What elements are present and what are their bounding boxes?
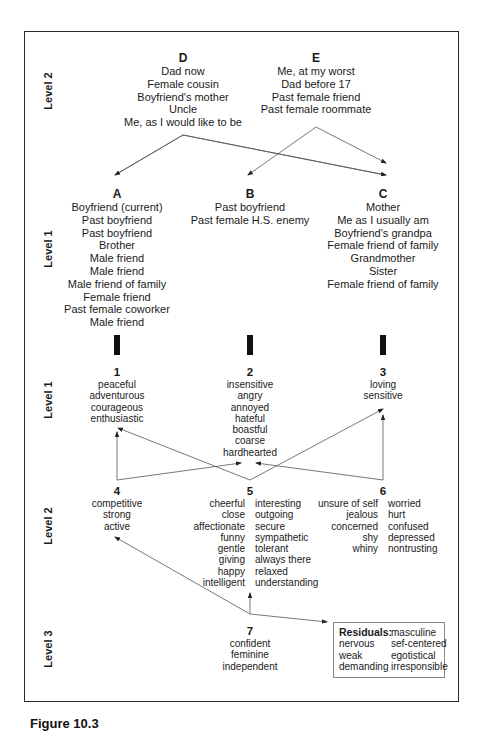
trait-cluster-3: 3 loving sensitive — [333, 366, 433, 402]
residual-item: weak — [339, 650, 392, 661]
trait-item: concerned — [298, 521, 378, 532]
group-heading: C — [323, 187, 443, 201]
residual-item: demanding — [339, 661, 392, 672]
trait-item: loving — [333, 379, 433, 390]
cluster-heading-5: 5 — [240, 485, 260, 498]
trait-column-left: unsure of self jealous concerned shy whi… — [298, 498, 378, 554]
group-item: Past female coworker — [57, 303, 177, 316]
group-item: Me, as I would like to be — [123, 116, 243, 129]
trait-item: worried — [388, 498, 437, 509]
cluster-heading: 2 — [200, 366, 300, 379]
residuals-column-left: Residuals: nervous weak demanding — [339, 627, 392, 672]
residual-item: irresponsible — [391, 661, 448, 672]
trait-item: confident — [200, 638, 300, 649]
trait-item: happy — [165, 566, 245, 577]
trait-item: hurt — [388, 509, 437, 520]
group-item: Male friend — [57, 265, 177, 278]
trait-column-left: cheerful close affectionate funny gentle… — [165, 498, 245, 588]
trait-cluster-2: 2 insensitive angry annoyed hateful boas… — [200, 366, 300, 458]
trait-item: depressed — [388, 532, 437, 543]
trait-item: hateful — [200, 413, 300, 424]
trait-item: cheerful — [165, 498, 245, 509]
residuals-box: Residuals: nervous weak demanding mascul… — [333, 622, 445, 678]
group-item: Boyfriend (current) — [57, 201, 177, 214]
trait-item: courageous — [67, 402, 167, 413]
group-item: Boyfriend's grandpa — [323, 227, 443, 240]
group-item: Past boyfriend — [190, 201, 310, 214]
trait-item: relaxed — [255, 566, 318, 577]
trait-item: close — [165, 509, 245, 520]
level-label-lower: Level 2 — [42, 496, 54, 556]
trait-cluster-4: 4 competitive strong active — [67, 485, 167, 532]
trait-item: sensitive — [333, 390, 433, 401]
trait-item: hardhearted — [200, 447, 300, 458]
trait-item: always there — [255, 554, 318, 565]
figure-group-c: C Mother Me as I usually am Boyfriend's … — [323, 187, 443, 291]
trait-cluster-1: 1 peaceful adventurous courageous enthus… — [67, 366, 167, 424]
trait-item: adventurous — [67, 390, 167, 401]
group-item: Sister — [323, 265, 443, 278]
separator-bar-1 — [114, 335, 120, 355]
trait-item: coarse — [200, 435, 300, 446]
group-item: Male friend — [57, 316, 177, 329]
trait-item: affectionate — [165, 521, 245, 532]
figure-group-a: A Boyfriend (current) Past boyfriend Pas… — [57, 187, 177, 329]
group-heading: D — [123, 51, 243, 65]
level-label-bottom: Level 3 — [42, 619, 54, 679]
trait-item: giving — [165, 554, 245, 565]
trait-item: active — [67, 521, 167, 532]
residual-item: nervous — [339, 638, 392, 649]
trait-item: competitive — [67, 498, 167, 509]
group-item: Female friend of family — [323, 239, 443, 252]
group-heading: B — [190, 187, 310, 201]
trait-item: nontrusting — [388, 543, 437, 554]
trait-item: unsure of self — [298, 498, 378, 509]
trait-item: insensitive — [200, 379, 300, 390]
level-label-middle: Level 1 — [42, 370, 54, 430]
group-item: Grandmother — [323, 252, 443, 265]
cluster-heading: 4 — [67, 485, 167, 498]
trait-item: shy — [298, 532, 378, 543]
trait-item: understanding — [255, 577, 318, 588]
figure-group-b: B Past boyfriend Past female H.S. enemy — [190, 187, 310, 227]
residual-item: masculine — [391, 627, 448, 638]
group-item: Female friend of family — [323, 278, 443, 291]
group-item: Brother — [57, 239, 177, 252]
group-item: Mother — [323, 201, 443, 214]
group-item: Past female H.S. enemy — [190, 214, 310, 227]
trait-item: strong — [67, 509, 167, 520]
residuals-column-right: masculine sef-centered egotistical irres… — [391, 627, 448, 672]
group-item: Past female friend — [256, 91, 376, 104]
trait-item: jealous — [298, 509, 378, 520]
trait-item: angry — [200, 390, 300, 401]
figure-caption: Figure 10.3 — [30, 716, 99, 731]
trait-item: enthusiastic — [67, 413, 167, 424]
cluster-heading-6: 6 — [373, 485, 393, 498]
trait-item: peaceful — [67, 379, 167, 390]
group-item: Dad now — [123, 65, 243, 78]
group-item: Past boyfriend — [57, 214, 177, 227]
level-label-top: Level 2 — [42, 61, 54, 121]
trait-item: whiny — [298, 543, 378, 554]
group-item: Female friend — [57, 291, 177, 304]
cluster-heading: 1 — [67, 366, 167, 379]
level-label-upper: Level 1 — [42, 219, 54, 279]
cluster-heading: 3 — [333, 366, 433, 379]
separator-bar-2 — [247, 335, 253, 355]
figure-group-e: E Me, at my worst Dad before 17 Past fem… — [256, 51, 376, 116]
group-item: Uncle — [123, 103, 243, 116]
cluster-heading: 7 — [200, 625, 300, 638]
trait-item: boastful — [200, 424, 300, 435]
group-item: Male friend — [57, 252, 177, 265]
group-item: Me as I usually am — [323, 214, 443, 227]
trait-item: feminine — [200, 649, 300, 660]
trait-item: annoyed — [200, 402, 300, 413]
trait-item: funny — [165, 532, 245, 543]
trait-item: intelligent — [165, 577, 245, 588]
separator-bar-3 — [380, 335, 386, 355]
residuals-title: Residuals: — [339, 627, 392, 638]
trait-item: independent — [200, 661, 300, 672]
group-item: Dad before 17 — [256, 78, 376, 91]
group-item: Past female roommate — [256, 103, 376, 116]
group-heading: E — [256, 51, 376, 65]
